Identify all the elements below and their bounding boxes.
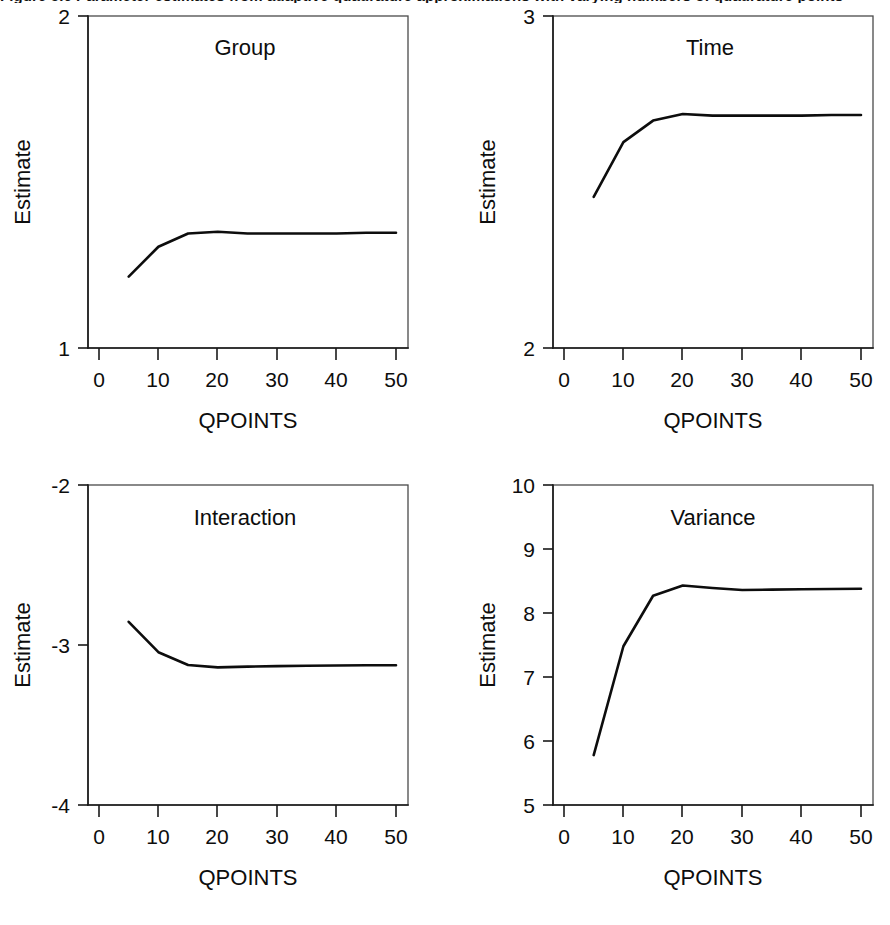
x-axis-title-group: QPOINTS — [198, 408, 297, 433]
x-tick-label-variance-10: 10 — [611, 825, 634, 848]
y-tick-label-interaction-neg4: -4 — [51, 794, 70, 817]
x-tick-label-group-10: 10 — [146, 368, 169, 391]
panel-time: 3 2 0 10 20 30 40 50 Time QPOINTS Estima… — [445, 0, 890, 460]
y-tick-label-group-2: 2 — [58, 5, 70, 28]
x-tick-label-interaction-10: 10 — [146, 825, 169, 848]
panel-group: 2 1 0 10 20 30 40 50 Group QPOINTS Estim… — [0, 0, 445, 460]
figure-root: Figure 5.6 Parameter estimates from adap… — [0, 0, 890, 925]
x-tick-label-time-0: 0 — [558, 368, 570, 391]
y-tick-label-variance-7: 7 — [523, 666, 535, 689]
y-tick-label-variance-9: 9 — [523, 538, 535, 561]
x-axis-title-interaction: QPOINTS — [198, 865, 297, 890]
x-tick-label-time-50: 50 — [849, 368, 872, 391]
x-tick-label-variance-40: 40 — [789, 825, 812, 848]
x-tick-label-interaction-30: 30 — [265, 825, 288, 848]
x-tick-label-time-10: 10 — [611, 368, 634, 391]
x-tick-label-interaction-50: 50 — [384, 825, 407, 848]
y-tick-label-group-1: 1 — [58, 337, 70, 360]
x-tick-label-group-20: 20 — [205, 368, 228, 391]
data-line-variance — [594, 585, 861, 755]
y-axis-title-interaction: Estimate — [10, 602, 35, 688]
panel-title-variance: Variance — [670, 505, 755, 530]
y-tick-label-variance-5: 5 — [523, 794, 535, 817]
x-axis-title-time: QPOINTS — [663, 408, 762, 433]
y-axis-title-variance: Estimate — [475, 602, 500, 688]
x-tick-label-interaction-40: 40 — [324, 825, 347, 848]
x-tick-label-time-40: 40 — [789, 368, 812, 391]
data-line-interaction — [129, 622, 396, 668]
x-tick-label-time-30: 30 — [730, 368, 753, 391]
panel-interaction: -2 -3 -4 0 10 20 30 40 50 Interaction QP… — [0, 465, 445, 925]
plot-box-interaction — [88, 485, 408, 805]
y-axis-title-group: Estimate — [10, 139, 35, 225]
y-tick-label-variance-8: 8 — [523, 602, 535, 625]
data-line-group — [129, 232, 396, 277]
panel-variance: 10 9 8 7 6 5 0 10 20 30 40 50 Variance Q… — [445, 465, 890, 925]
y-tick-label-interaction-neg3: -3 — [51, 634, 70, 657]
x-axis-title-variance: QPOINTS — [663, 865, 762, 890]
x-tick-label-group-40: 40 — [324, 368, 347, 391]
x-tick-label-variance-0: 0 — [558, 825, 570, 848]
y-axis-title-time: Estimate — [475, 139, 500, 225]
x-tick-label-group-0: 0 — [93, 368, 105, 391]
plot-box-variance — [553, 485, 873, 805]
x-tick-label-time-20: 20 — [670, 368, 693, 391]
panel-title-time: Time — [686, 35, 734, 60]
panel-title-group: Group — [214, 35, 275, 60]
y-tick-label-interaction-neg2: -2 — [51, 474, 70, 497]
x-tick-label-interaction-0: 0 — [93, 825, 105, 848]
x-tick-label-group-50: 50 — [384, 368, 407, 391]
data-line-time — [594, 114, 861, 197]
y-tick-label-time-2: 2 — [523, 337, 535, 360]
x-tick-label-interaction-20: 20 — [205, 825, 228, 848]
y-tick-label-variance-6: 6 — [523, 730, 535, 753]
plot-box-group — [88, 16, 408, 348]
y-tick-label-variance-10: 10 — [512, 474, 535, 497]
x-tick-label-group-30: 30 — [265, 368, 288, 391]
x-tick-label-variance-30: 30 — [730, 825, 753, 848]
x-tick-label-variance-20: 20 — [670, 825, 693, 848]
x-tick-label-variance-50: 50 — [849, 825, 872, 848]
panel-title-interaction: Interaction — [194, 505, 297, 530]
y-tick-label-time-3: 3 — [523, 5, 535, 28]
